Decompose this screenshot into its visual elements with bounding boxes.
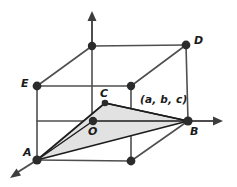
label-vertex-a: A <box>23 147 32 158</box>
edge-top-back <box>92 45 186 46</box>
vertex-dot-front-bottom <box>127 157 136 166</box>
vertex-dot-back-top-right <box>127 82 135 90</box>
label-vertex-d: D <box>194 35 203 46</box>
edge-top-right-diag <box>131 45 186 86</box>
label-vertex-c: C <box>100 88 108 99</box>
diagram-canvas: D E C (a, b, c) O B A <box>0 0 237 187</box>
edge-bottom-front <box>37 160 131 161</box>
label-point-coordinates: (a, b, c) <box>140 94 188 105</box>
edge-top-left-diag <box>37 46 92 86</box>
vertex-dot-d <box>182 41 191 50</box>
vertex-dot-top-axis <box>88 42 96 50</box>
vertex-dot-a <box>32 155 41 164</box>
label-vertex-e: E <box>21 78 29 89</box>
edge-vertical-right <box>186 45 188 121</box>
y-axis-arrow-icon <box>10 169 21 179</box>
axes <box>10 11 223 178</box>
coordinate-box-svg <box>0 0 237 187</box>
shaded-triangle-fill <box>37 103 188 160</box>
vertex-dot-c <box>102 100 109 107</box>
z-axis-arrow-icon <box>88 11 97 21</box>
label-origin: O <box>88 126 98 137</box>
label-vertex-b: B <box>190 126 199 137</box>
vertex-dot-e <box>33 82 42 91</box>
x-axis-arrow-icon <box>213 117 223 126</box>
vertex-dot-origin <box>89 117 97 125</box>
